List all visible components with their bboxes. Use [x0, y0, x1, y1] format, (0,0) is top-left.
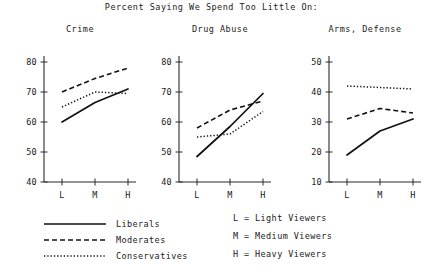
legend-label-conservatives: Conservatives: [116, 251, 188, 261]
chart-legend: Liberals Moderates Conservatives: [44, 216, 224, 264]
legend-item-liberals: Liberals: [44, 216, 224, 232]
x-tick-label: M: [227, 190, 232, 200]
legend-swatch-solid: [44, 216, 106, 232]
y-tick-label: 50: [311, 57, 322, 67]
y-tick-label: 10: [311, 177, 322, 187]
y-tick-label: 80: [161, 57, 172, 67]
plot-panel-crime: 4050607080LMH: [14, 50, 144, 210]
y-tick-label: 60: [26, 117, 37, 127]
series-line-liberals: [347, 119, 413, 155]
y-tick-label: 30: [311, 117, 322, 127]
y-tick-label: 20: [311, 147, 322, 157]
series-line-conservatives: [197, 112, 263, 138]
y-tick-label: 60: [161, 117, 172, 127]
plot-panel-arms-defense: 1020304050LMH: [299, 50, 423, 210]
x-tick-label: L: [194, 190, 199, 200]
viewer-key-light: L = Light Viewers: [233, 213, 332, 231]
y-tick-label: 80: [26, 57, 37, 67]
y-tick-label: 40: [26, 177, 37, 187]
viewer-key-heavy: H = Heavy Viewers: [233, 249, 332, 267]
y-tick-label: 70: [26, 87, 37, 97]
series-line-moderates: [347, 109, 413, 120]
viewer-key: L = Light Viewers M = Medium Viewers H =…: [233, 213, 332, 267]
panel-title-arms-defense: Arms, Defense: [305, 24, 423, 34]
legend-swatch-dotted: [44, 248, 106, 264]
series-line-moderates: [197, 101, 263, 128]
panel-title-crime: Crime: [20, 24, 140, 34]
legend-swatch-dashed: [44, 232, 106, 248]
series-line-liberals: [62, 89, 128, 122]
x-tick-label: M: [377, 190, 382, 200]
y-tick-label: 40: [311, 87, 322, 97]
legend-label-liberals: Liberals: [116, 219, 160, 229]
x-tick-label: H: [260, 190, 265, 200]
legend-item-moderates: Moderates: [44, 232, 224, 248]
series-line-liberals: [197, 94, 263, 157]
y-tick-label: 50: [161, 147, 172, 157]
panel-title-drug-abuse: Drug Abuse: [160, 24, 280, 34]
plot-panel-drug-abuse: 4050607080LMH: [149, 50, 279, 210]
x-tick-label: M: [92, 190, 97, 200]
x-tick-label: H: [125, 190, 130, 200]
series-line-moderates: [62, 68, 128, 92]
legend-label-moderates: Moderates: [116, 235, 166, 245]
y-tick-label: 40: [161, 177, 172, 187]
viewer-key-medium: M = Medium Viewers: [233, 231, 332, 249]
y-tick-label: 50: [26, 147, 37, 157]
y-tick-label: 70: [161, 87, 172, 97]
x-tick-label: L: [59, 190, 64, 200]
series-line-conservatives: [347, 86, 413, 89]
chart-title: Percent Saying We Spend Too Little On:: [0, 2, 423, 12]
x-tick-label: L: [344, 190, 349, 200]
x-tick-label: H: [410, 190, 415, 200]
legend-item-conservatives: Conservatives: [44, 248, 224, 264]
chart-figure: Percent Saying We Spend Too Little On: C…: [0, 0, 423, 270]
series-line-conservatives: [62, 92, 128, 107]
